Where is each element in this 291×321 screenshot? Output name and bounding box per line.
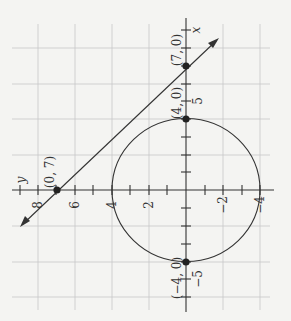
y-tick-label-8: 8 <box>31 201 45 209</box>
x-axis-label: x <box>189 26 203 33</box>
y-tick-label-6: 6 <box>68 201 82 209</box>
graph-figure: x y 5 −5 8 6 4 2 −2 −4 (7, 0) (4, 0) (−4… <box>0 0 291 321</box>
y-tick-label-4: 4 <box>105 201 119 209</box>
y-axis-label: y <box>14 176 28 184</box>
labels: x y 5 −5 8 6 4 2 −2 −4 (7, 0) (4, 0) (−4… <box>14 26 267 299</box>
point-label-neg4-0: (−4, 0) <box>170 257 184 299</box>
x-tick-label-5: 5 <box>191 97 205 105</box>
y-tick-label-2: 2 <box>142 201 156 209</box>
y-tick-label-neg2: −2 <box>216 196 230 214</box>
point-label-4-0: (4, 0) <box>170 87 184 119</box>
point-label-7-0: (7, 0) <box>170 34 184 66</box>
point-label-0-7: (0, 7) <box>43 156 57 188</box>
arrow-head-icon <box>20 216 30 227</box>
y-tick-label-neg4: −4 <box>253 196 267 214</box>
x-tick-label-neg5: −5 <box>191 270 205 288</box>
